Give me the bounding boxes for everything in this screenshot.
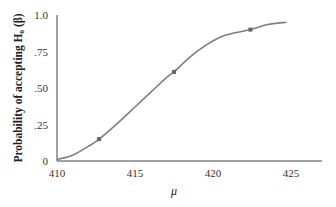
- curve-marker: [172, 70, 176, 74]
- y-tick-label: .25: [34, 119, 48, 131]
- x-tick-label: 415: [127, 167, 144, 179]
- y-tick-labels: 0.25.50.751.0: [34, 9, 48, 167]
- curve-markers: [97, 28, 252, 142]
- x-tick-label: 420: [205, 167, 222, 179]
- x-axis-label: μ: [170, 184, 177, 198]
- x-tick-label: 410: [49, 167, 66, 179]
- axes: [57, 15, 322, 161]
- y-tick-label: .75: [34, 46, 48, 58]
- y-tick-label: .50: [34, 82, 48, 94]
- oc-curve-line: [57, 22, 286, 159]
- x-tick-labels: 410415420425: [49, 167, 300, 179]
- y-tick-label: 1.0: [34, 9, 48, 21]
- y-tick-label: 0: [43, 155, 49, 167]
- y-axis-label: Probability of accepting H₀ (β): [12, 13, 25, 162]
- curve-marker: [97, 137, 101, 141]
- oc-curve-chart: 0.25.50.751.0 410415420425 Probability o…: [0, 0, 336, 207]
- x-tick-label: 425: [283, 167, 300, 179]
- curve-marker: [248, 28, 252, 32]
